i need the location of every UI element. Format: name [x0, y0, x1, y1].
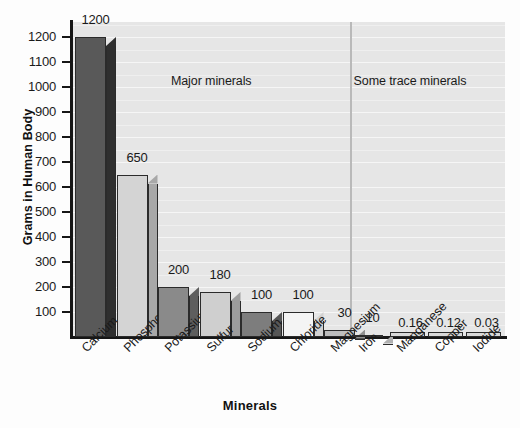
bar-top: [189, 287, 199, 296]
bar-value-label: 650: [111, 150, 164, 165]
bar-value-label: 1200: [69, 12, 122, 27]
bar-side: [383, 344, 393, 345]
bar-copper[interactable]: [428, 0, 469, 337]
y-axis-tick: [62, 161, 71, 163]
y-axis-tick: [62, 111, 71, 113]
y-axis-tick-label: 200: [35, 279, 56, 294]
y-axis-tick-label: 800: [35, 129, 56, 144]
bar-manganese[interactable]: [390, 0, 431, 337]
y-axis-tick: [62, 136, 71, 138]
bar-top: [106, 37, 116, 46]
y-axis-tick: [62, 186, 71, 188]
bar-iodide[interactable]: [466, 0, 507, 337]
y-axis-line: [70, 20, 73, 338]
y-axis-tick-label: 1200: [28, 29, 56, 44]
y-axis-tick-label: 100: [35, 304, 56, 319]
y-axis-tick-label: 500: [35, 204, 56, 219]
y-axis-tick: [62, 86, 71, 88]
bar-side: [106, 46, 116, 337]
bar-value-label: 180: [194, 267, 247, 282]
bar-potassium[interactable]: [158, 0, 199, 337]
y-axis-tick: [62, 261, 71, 263]
bar-calcium[interactable]: [75, 0, 116, 337]
x-axis-title: Minerals: [180, 398, 320, 413]
bar-face: [117, 175, 148, 338]
y-axis-tick-label: 600: [35, 179, 56, 194]
y-axis-tick: [62, 36, 71, 38]
y-axis-tick: [62, 61, 71, 63]
y-axis-tick: [62, 286, 71, 288]
y-axis-tick: [62, 311, 71, 313]
mineral-bar-chart: 100200300400500600700800900100011001200 …: [0, 0, 520, 428]
bar-phosphorus[interactable]: [117, 0, 158, 337]
y-axis-tick-label: 700: [35, 154, 56, 169]
bar-top: [148, 175, 158, 184]
y-axis-tick: [62, 236, 71, 238]
bar-iron[interactable]: [352, 0, 393, 337]
y-axis-tick: [62, 211, 71, 213]
y-axis-tick-label: 900: [35, 104, 56, 119]
bar-value-label: 100: [277, 287, 330, 302]
annotation-major-minerals: Major minerals: [131, 74, 291, 88]
annotation-trace-minerals: Some trace minerals: [330, 74, 490, 88]
y-axis-title: Grams in Human Body: [21, 87, 35, 267]
y-axis-tick-label: 300: [35, 254, 56, 269]
bar-face: [75, 37, 106, 337]
y-axis-tick-label: 1100: [29, 54, 56, 69]
y-axis-tick-label: 400: [35, 229, 56, 244]
